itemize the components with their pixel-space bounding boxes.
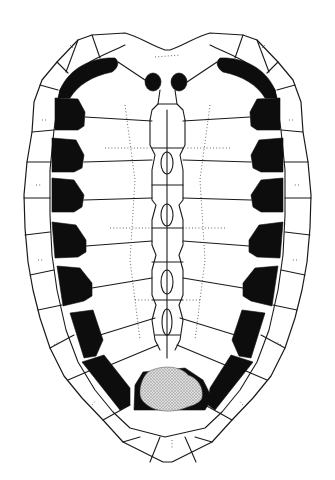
- carapace-diagram: [0, 0, 335, 480]
